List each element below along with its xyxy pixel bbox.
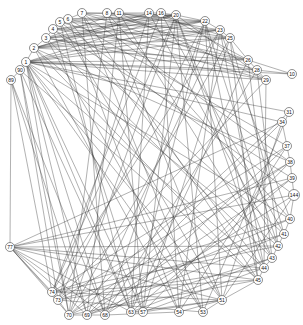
graph-edge <box>52 246 278 292</box>
node-label: 20 <box>173 12 179 18</box>
graph-node: 1 <box>22 58 31 67</box>
graph-node: 22 <box>201 17 210 26</box>
graph-node: 41 <box>280 230 289 239</box>
graph-node: 73 <box>54 296 63 305</box>
graph-edge <box>131 60 248 312</box>
node-label: 26 <box>245 57 251 63</box>
node-label: 42 <box>275 243 281 249</box>
graph-edge <box>10 247 87 315</box>
node-label: 31 <box>286 109 292 115</box>
node-label: 28 <box>254 67 260 73</box>
graph-node: 7 <box>78 9 87 18</box>
node-label: 34 <box>279 119 285 125</box>
node-label: 22 <box>202 18 208 24</box>
graph-edge <box>68 19 179 312</box>
node-label: 41 <box>281 231 287 237</box>
node-label: 16 <box>158 10 164 16</box>
graph-edge <box>10 80 11 247</box>
graph-node: 31 <box>285 108 294 117</box>
node-label: 69 <box>84 312 90 318</box>
graph-edge <box>69 219 290 315</box>
node-label: 11 <box>116 10 121 16</box>
graph-node: 90 <box>16 66 25 75</box>
graph-edge <box>10 247 264 268</box>
graph-node: 38 <box>286 158 295 167</box>
node-label: 40 <box>287 216 293 222</box>
graph-edge <box>10 247 52 292</box>
node-label: 44 <box>261 265 267 271</box>
node-label: 25 <box>227 35 233 41</box>
graph-node: 16 <box>157 9 166 18</box>
node-label: 74 <box>49 289 55 295</box>
graph-edge <box>69 162 290 315</box>
graph-edge <box>11 80 105 315</box>
node-label: 14 <box>146 10 152 16</box>
node-label: 2 <box>33 45 36 51</box>
node-label: 29 <box>263 77 269 83</box>
node-label: 68 <box>102 312 108 318</box>
graph-node: 20 <box>172 11 181 20</box>
graph-node: 11 <box>115 9 124 18</box>
node-label: 4 <box>52 26 55 32</box>
graph-node: 29 <box>262 76 271 85</box>
node-label: 144 <box>290 192 299 198</box>
graph-node: 6 <box>64 15 73 24</box>
graph-node: 74 <box>48 288 57 297</box>
graph-node: 3 <box>42 34 51 43</box>
graph-node: 5 <box>56 18 65 27</box>
graph-node: 26 <box>244 56 253 65</box>
graph-node: 39 <box>288 174 297 183</box>
node-label: 90 <box>17 67 23 73</box>
node-label: 8 <box>106 10 109 16</box>
graph-node: 2 <box>30 44 39 53</box>
graph-node: 54 <box>175 308 184 317</box>
graph-edge <box>46 38 272 258</box>
node-label: 73 <box>55 297 61 303</box>
node-label: 39 <box>289 175 295 181</box>
node-label: 37 <box>284 143 290 149</box>
graph-edge <box>11 80 52 292</box>
node-label: 57 <box>140 309 146 315</box>
graph-node: 57 <box>139 308 148 317</box>
graph-node: 28 <box>253 66 262 75</box>
node-label: 6 <box>67 16 70 22</box>
graph-node: 14 <box>145 9 154 18</box>
graph-node: 45 <box>254 276 263 285</box>
graph-edge <box>53 21 205 29</box>
graph-node: 63 <box>127 308 136 317</box>
graph-node: 42 <box>274 242 283 251</box>
graph-node: 10 <box>288 70 297 79</box>
node-label: 23 <box>217 27 223 33</box>
node-label: 3 <box>45 35 48 41</box>
graph-edge <box>222 280 258 300</box>
graph-node: 144 <box>289 190 300 201</box>
node-label: 38 <box>287 159 293 165</box>
graph-edge <box>10 247 222 300</box>
graph-node: 25 <box>226 34 235 43</box>
node-label: 10 <box>289 71 295 77</box>
node-label: 53 <box>200 309 206 315</box>
graph-node: 69 <box>83 311 92 320</box>
graph-edge <box>34 48 179 312</box>
graph-node: 34 <box>278 118 287 127</box>
graph-edge <box>34 38 230 48</box>
graph-node: 44 <box>260 264 269 273</box>
graph-node: 70 <box>65 311 74 320</box>
graph-node: 8 <box>103 9 112 18</box>
node-label: 1 <box>25 59 28 65</box>
graph-node: 68 <box>101 311 110 320</box>
graph-edge <box>10 246 278 247</box>
graph-edge <box>58 21 205 300</box>
node-label: 51 <box>219 297 225 303</box>
graph-edge <box>105 146 287 315</box>
graph-edge <box>26 62 289 112</box>
graph-edge <box>10 247 258 280</box>
graph-edge <box>26 62 87 315</box>
graph-edge <box>143 162 290 312</box>
graph-edge <box>20 70 58 300</box>
graph-node: 89 <box>7 76 16 85</box>
node-label: 5 <box>59 19 62 25</box>
node-label: 45 <box>255 277 261 283</box>
graph-node: 40 <box>286 215 295 224</box>
network-graph: 7811141620222325262829103134373839144404… <box>0 0 303 325</box>
